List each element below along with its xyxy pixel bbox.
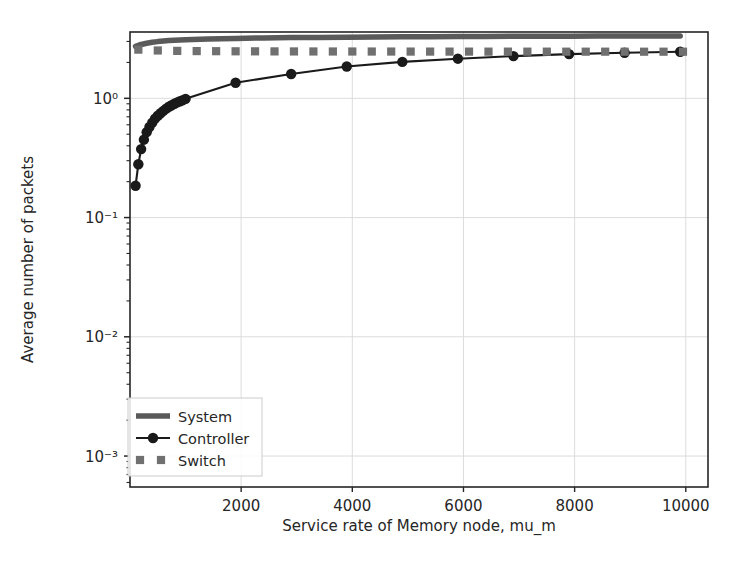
data-point-marker [407, 47, 415, 55]
data-point-marker [397, 57, 407, 67]
line-chart: 20004000600080001000010⁰10⁻¹10⁻²10⁻³ Ser… [0, 0, 756, 565]
data-point-marker [348, 47, 356, 55]
y-tick-label: 10⁻² [85, 328, 118, 346]
data-point-marker [130, 181, 140, 191]
data-point-marker [232, 47, 240, 55]
x-tick-label: 4000 [333, 497, 371, 515]
y-tick-label: 10⁰ [93, 90, 118, 108]
y-tick-label: 10⁻³ [85, 448, 118, 466]
data-point-marker [251, 47, 259, 55]
data-point-marker [523, 48, 531, 56]
data-point-marker [484, 48, 492, 56]
data-point-marker [445, 48, 453, 56]
series-line [136, 52, 681, 186]
data-point-marker [640, 48, 648, 56]
series-line [136, 36, 681, 46]
data-point-marker [679, 48, 687, 56]
legend-label: Controller [178, 431, 249, 447]
legend-label: Switch [178, 453, 226, 469]
data-point-marker [193, 47, 201, 55]
data-point-marker [368, 47, 376, 55]
y-tick-label: 10⁻¹ [85, 209, 118, 227]
data-point-marker [465, 48, 473, 56]
x-tick-label: 8000 [556, 497, 594, 515]
data-point-marker [134, 46, 142, 54]
chart-figure: 20004000600080001000010⁰10⁻¹10⁻²10⁻³ Ser… [0, 0, 756, 565]
data-point-marker [659, 48, 667, 56]
legend-swatch-marker [157, 456, 165, 464]
data-point-marker [212, 47, 220, 55]
data-series [130, 36, 687, 191]
data-point-marker [270, 47, 278, 55]
chart-legend: SystemControllerSwitch [128, 398, 262, 476]
data-point-marker [504, 48, 512, 56]
data-point-marker [136, 144, 146, 154]
x-tick-label: 2000 [222, 497, 260, 515]
data-point-marker [180, 94, 190, 104]
data-point-marker [290, 47, 298, 55]
data-point-marker [342, 61, 352, 71]
data-point-marker [562, 48, 570, 56]
x-tick-label: 10000 [662, 497, 710, 515]
data-point-marker [286, 69, 296, 79]
data-point-marker [621, 48, 629, 56]
series-switch [134, 46, 687, 56]
data-point-marker [154, 46, 162, 54]
data-point-marker [601, 48, 609, 56]
x-axis-label: Service rate of Memory node, mu_m [282, 517, 556, 536]
data-point-marker [230, 78, 240, 88]
x-tick-label: 6000 [444, 497, 482, 515]
legend-swatch-marker [136, 456, 144, 464]
data-point-marker [309, 47, 317, 55]
series-system [136, 36, 681, 46]
data-point-marker [582, 48, 590, 56]
data-point-marker [329, 47, 337, 55]
series-controller [130, 47, 685, 191]
data-point-marker [133, 159, 143, 169]
data-point-marker [173, 47, 181, 55]
data-point-marker [387, 47, 395, 55]
data-point-marker [453, 53, 463, 63]
legend-swatch-marker [148, 433, 158, 443]
legend-label: System [178, 409, 232, 425]
data-point-marker [426, 47, 434, 55]
data-point-marker [543, 48, 551, 56]
y-axis-label: Average number of packets [19, 156, 37, 363]
